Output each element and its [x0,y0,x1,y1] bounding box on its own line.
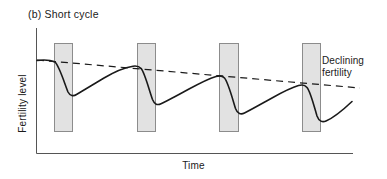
shaded-band-1 [55,44,73,132]
figure-short-cycle: (b) Short cycle Fertility level Time Dec… [0,0,387,179]
shaded-band-group [55,44,321,132]
chart-canvas [0,0,387,179]
shaded-band-2 [138,44,156,132]
